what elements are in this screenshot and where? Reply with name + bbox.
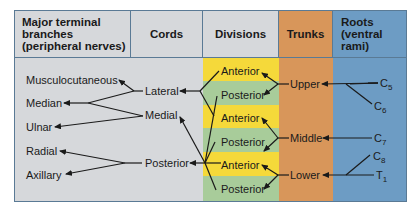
root-c8-sub: 8: [381, 156, 385, 165]
division-posterior-2: Posterior: [221, 136, 265, 148]
cord-medial: Medial: [145, 109, 177, 121]
branch-axillary: Axillary: [26, 169, 61, 181]
division-anterior-1: Anterior: [221, 65, 260, 77]
trunk-lower: Lower: [290, 169, 320, 181]
division-posterior-3: Posterior: [221, 183, 265, 195]
branch-median: Median: [26, 97, 62, 109]
root-c8-base: C: [373, 150, 381, 162]
root-c7: C7: [374, 132, 386, 146]
root-c8: C8: [373, 150, 385, 164]
root-c6-base: C: [374, 100, 382, 112]
cord-lateral: Lateral: [145, 85, 179, 97]
trunk-upper: Upper: [290, 78, 320, 90]
root-c6: C6: [374, 100, 386, 114]
division-anterior-2: Anterior: [221, 112, 260, 124]
division-posterior-1: Posterior: [221, 89, 265, 101]
branch-musculocutaneous: Musculocutaneous: [26, 74, 118, 86]
root-c6-sub: 6: [382, 106, 386, 115]
root-t1: T1: [376, 169, 387, 183]
cord-posterior: Posterior: [145, 157, 189, 169]
branch-ulnar: Ulnar: [26, 121, 52, 133]
root-c5: C5: [380, 77, 392, 91]
root-c7-sub: 7: [382, 138, 386, 147]
trunk-middle: Middle: [290, 132, 322, 144]
root-t1-base: T: [376, 169, 383, 181]
branch-radial: Radial: [26, 145, 57, 157]
root-t1-sub: 1: [383, 175, 387, 184]
table-frame: [14, 10, 407, 202]
division-anterior-3: Anterior: [221, 159, 260, 171]
root-c5-base: C: [380, 77, 388, 89]
root-c5-sub: 5: [388, 83, 392, 92]
root-c7-base: C: [374, 132, 382, 144]
